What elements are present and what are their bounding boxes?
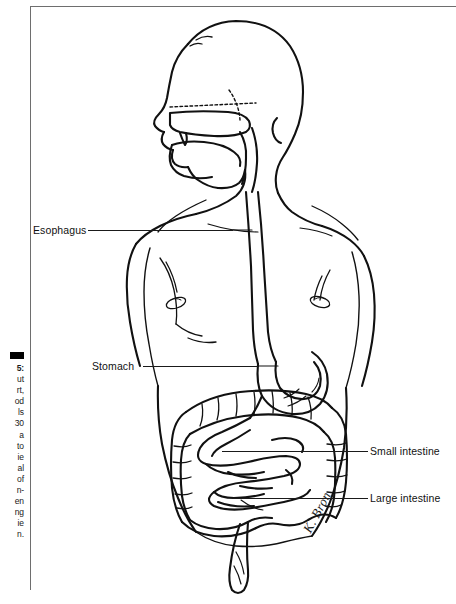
figure-page: 5: ut rt, od ls 30 a to ie al of n- en n… xyxy=(0,0,456,604)
small-intestine-leader-line xyxy=(316,451,368,452)
oral-nasal-cavity xyxy=(170,90,257,192)
digestive-system-illustration xyxy=(0,0,456,604)
esophagus-organ xyxy=(246,192,276,364)
label-small-intestine: Small intestine xyxy=(370,445,440,457)
label-large-intestine: Large intestine xyxy=(370,492,440,504)
large-intestine-leader-line-inner xyxy=(232,498,318,499)
label-esophagus: Esophagus xyxy=(33,224,86,236)
esophagus-leader-line xyxy=(88,230,233,231)
stomach-organ xyxy=(250,352,328,418)
label-stomach: Stomach xyxy=(92,360,134,372)
stomach-leader-line xyxy=(143,366,259,367)
small-intestine-leader-line-inner xyxy=(222,451,318,452)
body-contour-lines xyxy=(160,258,331,510)
small-intestine-organ xyxy=(198,418,310,510)
